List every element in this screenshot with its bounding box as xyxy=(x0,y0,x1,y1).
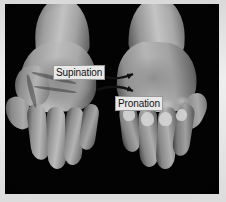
supination-label: Supination xyxy=(53,65,105,80)
photograph: Supination Pronation xyxy=(5,4,219,194)
figure-container: Supination Pronation xyxy=(0,0,226,202)
fingernail xyxy=(141,112,154,126)
pronation-label: Pronation xyxy=(115,96,163,111)
knuckle xyxy=(175,96,190,106)
fingernail xyxy=(159,112,173,127)
